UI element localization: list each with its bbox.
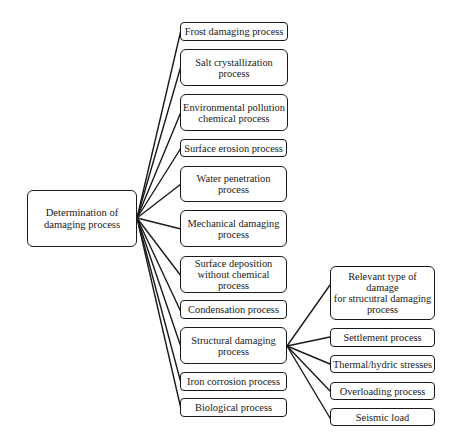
- node-label: Iron corrosion process: [187, 376, 280, 387]
- node-label-line-2: without chemical process: [183, 269, 284, 291]
- node-condensation: Condensation process: [180, 300, 287, 319]
- node-frost: Frost damaging process: [180, 22, 288, 41]
- node-structural: Structural damaging process: [180, 327, 287, 364]
- root-label-line-2: damaging process: [44, 219, 120, 231]
- node-label: Seismic load: [356, 412, 409, 423]
- edge-root-salt: [137, 66, 181, 218]
- node-erosion: Surface erosion process: [180, 139, 287, 157]
- node-label-line-2: for strucutral damaging: [333, 293, 432, 304]
- node-iron: Iron corrosion process: [180, 372, 287, 391]
- node-label-line-1: Salt crystallization: [195, 57, 273, 68]
- node-label-line-1: Surface deposition: [183, 258, 284, 269]
- node-label-line-2: process: [191, 346, 276, 357]
- root-node-determination: Determination of damaging process: [27, 190, 137, 247]
- node-label: Overloading process: [340, 386, 426, 397]
- node-label: Condensation process: [188, 304, 279, 315]
- edge-root-environmental: [137, 112, 181, 218]
- node-label-line-1: Structural damaging: [191, 335, 276, 346]
- node-label-line-2: process: [195, 68, 273, 79]
- node-biological: Biological process: [180, 398, 287, 417]
- node-salt: Salt crystallization process: [180, 49, 288, 86]
- node-mechanical: Mechanical damaging process: [180, 210, 287, 247]
- root-label-line-1: Determination of: [44, 207, 120, 219]
- node-deposition: Surface deposition without chemical proc…: [180, 256, 287, 293]
- node-settlement: Settlement process: [330, 328, 435, 347]
- edge-structural-overloading: [287, 346, 330, 391]
- edge-root-iron: [137, 218, 181, 383]
- node-environmental: Environmental pollution chemical process: [180, 94, 288, 131]
- node-label-line-2: chemical process: [183, 113, 285, 124]
- node-thermal: Thermal/hydric stresses: [330, 355, 435, 373]
- node-label: Frost damaging process: [185, 26, 284, 37]
- node-label: Settlement process: [343, 332, 421, 343]
- node-label-line-1: Relevant type of damage: [333, 271, 432, 293]
- node-label: Biological process: [195, 402, 272, 413]
- edge-structural-thermal: [287, 346, 330, 364]
- node-water: Water penetration process: [180, 166, 287, 202]
- node-label-line-1: Mechanical damaging: [187, 218, 279, 229]
- node-seismic: Seismic load: [330, 408, 435, 426]
- node-relevant: Relevant type of damage for strucutral d…: [330, 266, 435, 320]
- node-label-line-2: process: [187, 229, 279, 240]
- node-label: Thermal/hydric stresses: [333, 359, 432, 370]
- node-label-line-1: Environmental pollution: [183, 102, 285, 113]
- node-label: Water penetration process: [183, 173, 284, 195]
- edge-root-erosion: [137, 148, 181, 218]
- edge-structural-settlement: [287, 337, 330, 346]
- node-overloading: Overloading process: [330, 382, 435, 400]
- node-label-line-3: process: [333, 304, 432, 315]
- diagram-canvas: Determination of damaging process Frost …: [0, 0, 458, 446]
- edge-structural-relevant: [287, 285, 330, 346]
- edge-structural-seismic: [287, 346, 330, 418]
- node-label: Surface erosion process: [184, 143, 283, 154]
- edge-root-structural: [137, 218, 181, 347]
